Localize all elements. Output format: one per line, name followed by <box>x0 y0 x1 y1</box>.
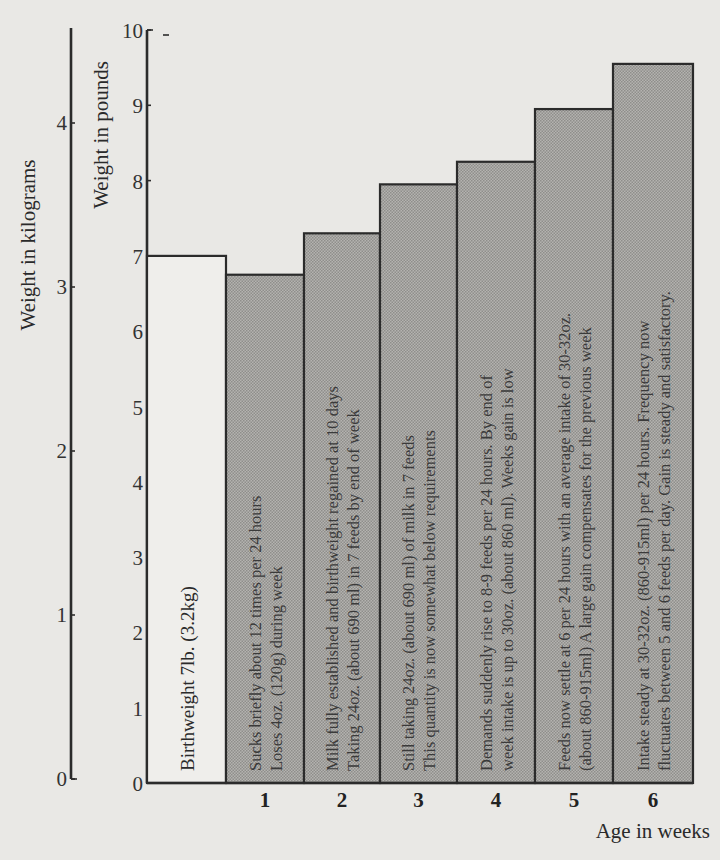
pound-tick-label: 9 <box>133 94 144 118</box>
pound-tick-label: 7 <box>133 245 144 269</box>
pound-tick-label: 4 <box>133 471 144 495</box>
kg-axis: 01234 <box>57 28 78 791</box>
bars: Birthweight 7lb. (3.2kg)Sucks briefly ab… <box>147 64 693 783</box>
bar-annotation: Sucks briefly about 12 times per 24 hour… <box>246 496 265 771</box>
kg-tick-label: 3 <box>57 275 68 299</box>
week-bar: Milk fully established and birthweight r… <box>304 233 380 783</box>
week-bar: Intake steady at 30-32oz. (860-915ml) pe… <box>613 64 693 783</box>
kg-tick-label: 0 <box>57 767 68 791</box>
pound-tick-label: 8 <box>133 170 144 194</box>
week-bar: Feeds now settle at 6 per 24 hours with … <box>535 109 613 783</box>
kg-tick-label: 4 <box>57 111 68 135</box>
x-tick-label: 5 <box>569 788 580 812</box>
bar-annotation: Intake steady at 30-32oz. (860-915ml) pe… <box>634 320 653 771</box>
bar-annotation: Loses 4oz. (120g) during week <box>267 565 286 771</box>
pound-tick-label: 1 <box>133 697 144 721</box>
pound-tick-label: 6 <box>133 320 144 344</box>
pound-tick-label: 10 <box>122 19 143 43</box>
kg-axis-title: Weight in kilograms <box>16 160 40 331</box>
bar-annotation: This quantity is now somewhat below requ… <box>420 430 439 771</box>
week-bar: Still taking 24oz. (about 690 ml) of mil… <box>380 184 457 783</box>
pound-tick-label: 2 <box>133 621 144 645</box>
kg-tick-label: 2 <box>57 439 68 463</box>
bar-annotation: Feeds now settle at 6 per 24 hours with … <box>555 313 574 771</box>
x-axis: 123456 <box>147 783 693 812</box>
x-tick-label: 1 <box>260 788 271 812</box>
bar-annotation: fluctuates between 5 and 6 feeds per day… <box>655 291 674 771</box>
x-axis-title: Age in weeks <box>596 819 710 843</box>
pound-axis-title: Weight in pounds <box>89 61 113 209</box>
pound-tick-label: 3 <box>133 546 144 570</box>
x-tick-label: 2 <box>337 788 348 812</box>
x-tick-label: 3 <box>413 788 424 812</box>
x-tick-label: 6 <box>648 788 659 812</box>
kg-tick-label: 1 <box>57 603 68 627</box>
birthweight-bar: Birthweight 7lb. (3.2kg) <box>147 256 226 783</box>
pound-tick-label: 5 <box>133 396 144 420</box>
bar-annotation: (about 860-915ml) A large gain compensat… <box>576 327 595 771</box>
infant-weight-chart: 01234 012345678910 Birthweight 7lb. (3.2… <box>0 0 720 860</box>
x-tick-label: 4 <box>491 788 502 812</box>
bar-annotation: Birthweight 7lb. (3.2kg) <box>177 586 199 771</box>
bar-annotation: week intake is up to 30oz. (about 860 ml… <box>498 368 517 771</box>
bar-annotation: Taking 24oz. (about 690 ml) in 7 feeds b… <box>344 408 363 771</box>
pound-tick-label: 0 <box>133 772 144 796</box>
bar-annotation: Still taking 24oz. (about 690 ml) of mil… <box>399 435 418 771</box>
bar-annotation: Milk fully established and birthweight r… <box>323 386 342 771</box>
week-bar: Sucks briefly about 12 times per 24 hour… <box>226 275 304 783</box>
bar-annotation: Demands suddenly rise to 8-9 feeds per 2… <box>477 375 496 771</box>
week-bar: Demands suddenly rise to 8-9 feeds per 2… <box>457 162 535 783</box>
